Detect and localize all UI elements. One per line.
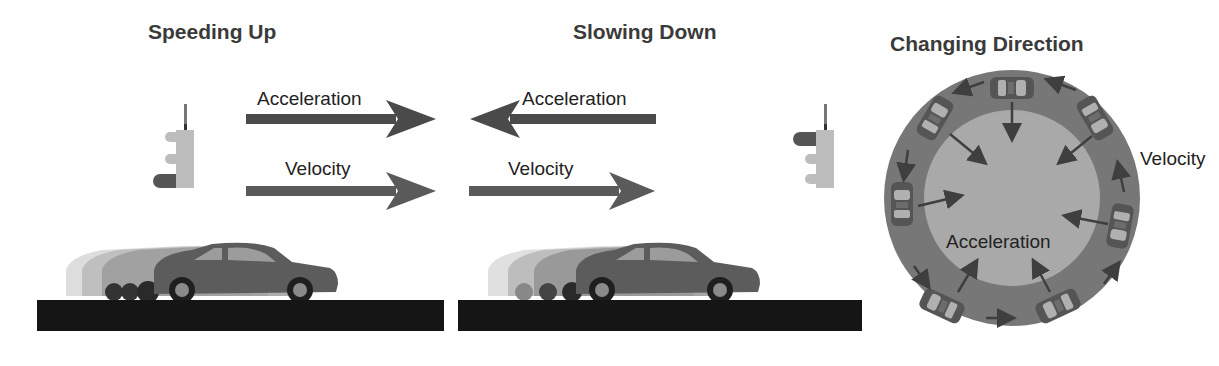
velocity-label: Velocity — [1140, 148, 1205, 170]
traffic-light-icon — [150, 104, 196, 190]
traffic-light-icon — [790, 104, 836, 190]
car-slowing-down-icon — [484, 240, 764, 304]
velocity-arrow-right-icon — [246, 172, 436, 210]
panel-title-slowing-down: Slowing Down — [573, 20, 716, 44]
road — [458, 300, 862, 331]
panel-title-speeding-up: Speeding Up — [148, 20, 276, 44]
car-speeding-up-icon — [62, 240, 342, 304]
panel-title-changing-direction: Changing Direction — [890, 32, 1084, 56]
acceleration-arrow-left-icon — [470, 100, 660, 138]
acceleration-label: Acceleration — [946, 231, 1051, 253]
road — [37, 300, 444, 331]
acceleration-arrow-right-icon — [246, 100, 436, 138]
circular-track-diagram — [880, 66, 1144, 330]
velocity-arrow-right-icon — [469, 172, 659, 210]
